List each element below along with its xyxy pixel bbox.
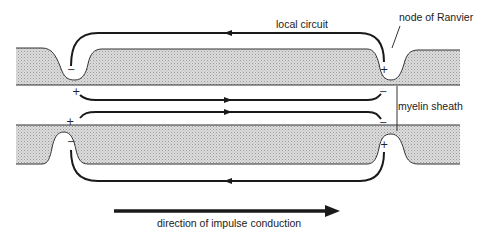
sign-top-right-node: + (380, 64, 388, 75)
label-myelin-sheath: myelin sheath (398, 100, 463, 112)
label-direction: direction of impulse conduction (157, 217, 301, 229)
sign-top-left-axon: + (72, 86, 80, 97)
arrowhead-inner-bottom (224, 109, 232, 115)
label-node-of-ranvier: node of Ranvier (399, 11, 474, 23)
sign-bottom-left-node: − (67, 136, 75, 147)
sign-top-left-node: − (67, 64, 75, 75)
arrowhead-bottom-outer (224, 178, 232, 184)
direction-arrowhead (325, 205, 340, 217)
local-circuit-inner-top (80, 94, 381, 100)
sign-bottom-right-axon: − (379, 117, 387, 128)
local-circuit-inner-bottom (80, 112, 381, 119)
arrowhead-inner-top (224, 97, 232, 103)
arrowhead-top-outer (224, 30, 232, 36)
sign-bottom-right-node: + (380, 139, 388, 150)
label-local-circuit: local circuit (276, 18, 328, 30)
sign-top-right-axon: − (379, 86, 387, 97)
sign-bottom-left-axon: + (66, 116, 74, 127)
node-of-ranvier-pointer (392, 26, 400, 48)
myelin-sheath-bottom (16, 125, 460, 164)
myelinated-axon-diagram: local circuit node of Ranvier myelin she… (0, 0, 481, 237)
